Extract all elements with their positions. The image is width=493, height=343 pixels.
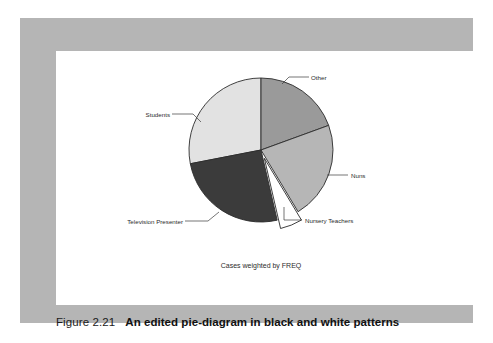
pie-label-nuns: Nuns	[351, 172, 365, 179]
pie-label-other: Other	[311, 74, 326, 81]
pie-slice-television-presenter[interactable]	[190, 150, 277, 222]
chart-footnote: Cases weighted by FREQ	[221, 262, 302, 270]
figure-page: Other Students Nuns Nursery Teachers Tel…	[0, 0, 493, 343]
chart-canvas: Other Students Nuns Nursery Teachers Tel…	[56, 51, 477, 305]
pie-label-nursery-teachers: Nursery Teachers	[305, 217, 353, 224]
figure-panel: Other Students Nuns Nursery Teachers Tel…	[20, 18, 473, 323]
pie-chart: Other Students Nuns Nursery Teachers Tel…	[56, 51, 477, 305]
pie-label-students: Students	[146, 111, 170, 118]
figure-number: Figure 2.21	[56, 316, 115, 328]
figure-caption: Figure 2.21An edited pie-diagram in blac…	[56, 312, 486, 334]
leader-line-television-presenter	[185, 212, 219, 221]
pie-label-television-presenter: Television Presenter	[127, 218, 183, 225]
figure-title: An edited pie-diagram in black and white…	[125, 316, 399, 328]
